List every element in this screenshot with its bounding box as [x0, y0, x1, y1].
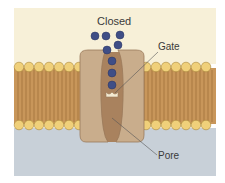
membrane-tails-right: [140, 68, 216, 124]
gate-label: Gate: [158, 41, 180, 52]
title-label: Closed: [97, 15, 131, 27]
ion-channel-diagram: [0, 0, 225, 183]
pore-label: Pore: [158, 150, 179, 161]
membrane-tails-left: [14, 68, 84, 124]
